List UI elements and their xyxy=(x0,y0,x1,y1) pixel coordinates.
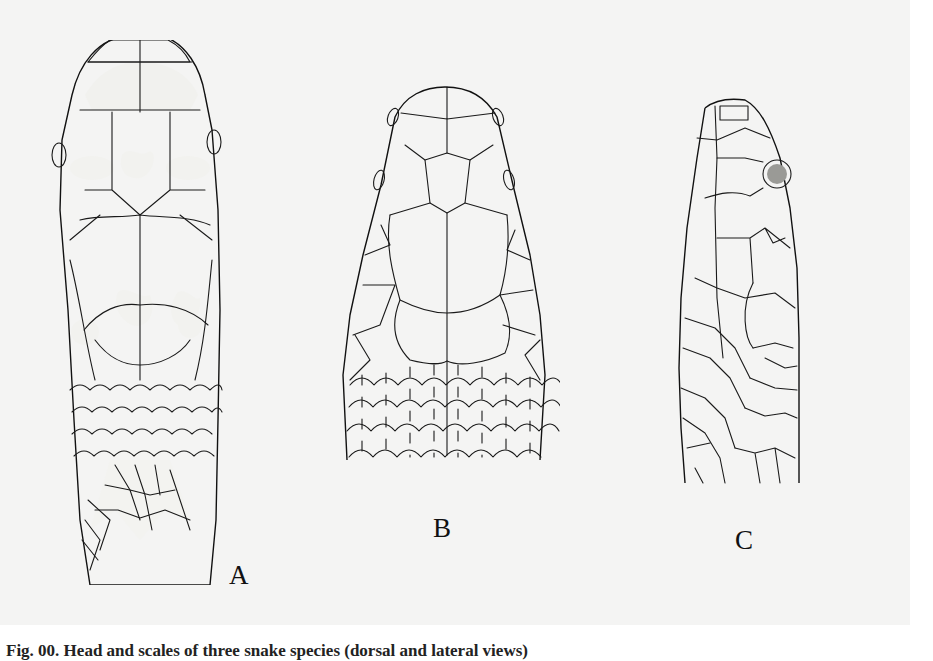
head-illustration-a xyxy=(40,40,240,585)
head-illustration-c xyxy=(675,98,820,488)
figure-caption: Fig. 00. Head and scales of three snake … xyxy=(6,641,528,661)
panel-label-a: A xyxy=(229,560,249,591)
snake-head-c-drawing xyxy=(675,98,820,488)
snake-head-a-drawing xyxy=(40,40,240,585)
snake-head-b-drawing xyxy=(335,85,560,465)
head-illustration-b xyxy=(335,85,560,465)
panel-label-c: C xyxy=(735,525,753,556)
panel-label-b: B xyxy=(433,513,451,544)
